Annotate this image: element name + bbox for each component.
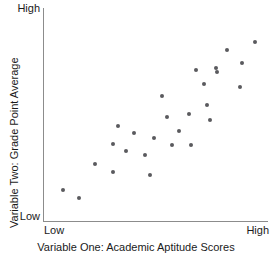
data-point <box>111 170 115 174</box>
data-point <box>253 40 257 44</box>
data-point <box>238 85 242 89</box>
data-point <box>208 118 212 122</box>
data-point <box>194 68 198 72</box>
data-point <box>132 131 136 135</box>
x-axis-tick-high: High <box>246 224 269 236</box>
data-point <box>77 196 81 200</box>
data-point <box>170 143 174 147</box>
data-point <box>160 94 164 98</box>
data-point <box>215 70 219 74</box>
y-axis-title: Variable Two: Grade Point Average <box>7 14 21 228</box>
y-axis-tick-high: High <box>17 2 40 14</box>
data-point <box>177 129 181 133</box>
data-point <box>93 162 97 166</box>
x-axis-title: Variable One: Academic Aptitude Scores <box>0 241 272 254</box>
data-point <box>124 149 128 153</box>
x-axis-tick-low: Low <box>44 224 64 236</box>
data-point <box>165 115 169 119</box>
data-point <box>187 112 191 116</box>
data-point <box>240 61 244 65</box>
data-point <box>189 143 193 147</box>
data-point <box>143 153 147 157</box>
plot-area <box>43 8 268 222</box>
scatter-plot-figure: High Low Low High Variable One: Academic… <box>0 0 272 260</box>
data-point <box>225 48 229 52</box>
data-point <box>205 103 209 107</box>
data-point <box>152 136 156 140</box>
data-point <box>202 82 206 86</box>
y-axis-tick-low: Low <box>20 210 40 222</box>
data-point <box>111 142 115 146</box>
data-point <box>148 173 152 177</box>
data-point <box>61 188 65 192</box>
data-point <box>214 66 218 70</box>
data-point <box>116 124 120 128</box>
